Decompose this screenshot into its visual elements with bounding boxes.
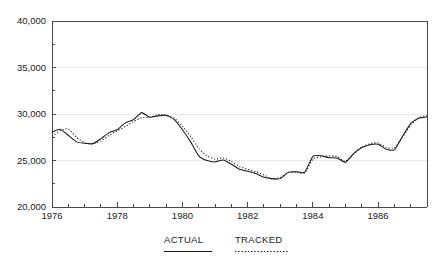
y-tick-label-25000: 25,000 [17, 155, 46, 166]
x-tick-label-1984: 1984 [302, 210, 323, 221]
y-tick-label-30000: 30,000 [17, 108, 46, 119]
line-chart-figure: 20,00025,00030,00035,00040,000 197619781… [0, 0, 444, 262]
legend-label-tracked: TRACKED [235, 234, 283, 245]
y-tick-label-35000: 35,000 [17, 62, 46, 73]
legend-label-actual: ACTUAL [164, 234, 203, 245]
chart-background [0, 0, 444, 262]
x-tick-label-1986: 1986 [368, 210, 389, 221]
x-tick-label-1976: 1976 [41, 210, 62, 221]
x-tick-label-1980: 1980 [172, 210, 193, 221]
y-tick-label-40000: 40,000 [17, 15, 46, 26]
x-tick-label-1978: 1978 [107, 210, 128, 221]
x-tick-label-1982: 1982 [237, 210, 258, 221]
